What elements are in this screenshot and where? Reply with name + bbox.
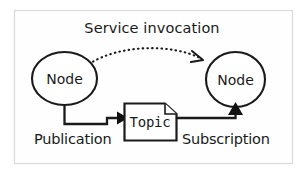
node-left-label: Node xyxy=(46,71,83,87)
topic-label: Topic xyxy=(129,114,170,130)
publication-label: Publication xyxy=(34,131,111,147)
publish-subscribe-diagram: Node Node Topic Service invocation Publi… xyxy=(0,0,306,174)
subscription-label: Subscription xyxy=(182,131,270,147)
diagram-canvas: Node Node Topic Service invocation Publi… xyxy=(0,0,306,174)
node-right-label: Node xyxy=(217,72,254,88)
diagram-title: Service invocation xyxy=(84,20,219,36)
